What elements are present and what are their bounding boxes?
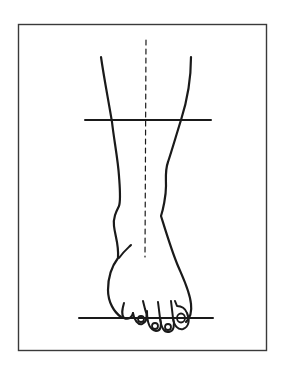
toes xyxy=(122,301,189,332)
toe-little xyxy=(122,303,133,319)
leg-outline-left xyxy=(101,57,121,317)
leg-outline-right xyxy=(161,57,191,322)
vertical-dashed-midline xyxy=(145,40,146,257)
toe-big xyxy=(173,301,189,329)
toenail-third xyxy=(152,323,158,329)
foot-alignment-diagram xyxy=(0,0,282,368)
ankle-crease xyxy=(119,245,131,258)
toe-third xyxy=(147,302,161,331)
toe-fourth xyxy=(133,301,147,324)
toenail-second xyxy=(165,324,171,330)
